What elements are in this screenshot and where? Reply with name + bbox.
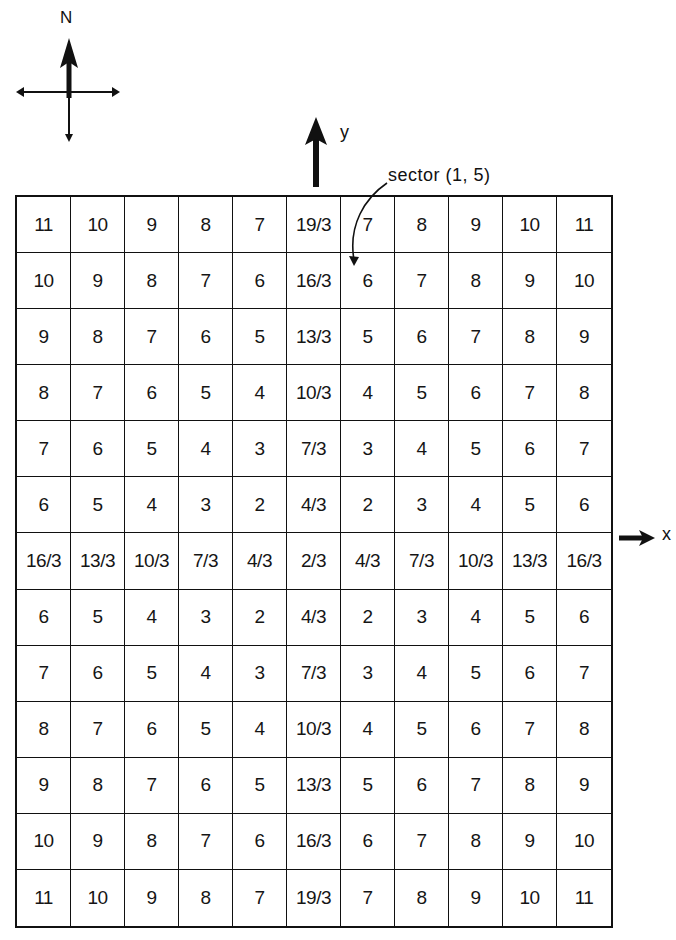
grid-cell: 6	[233, 253, 287, 309]
grid-cell: 6	[395, 309, 449, 365]
grid-cell: 9	[17, 758, 71, 814]
grid-cell: 4	[233, 365, 287, 421]
grid-cell: 6	[71, 421, 125, 477]
grid-cell: 6	[503, 421, 557, 477]
grid-cell: 4	[179, 421, 233, 477]
grid-cell: 16/3	[287, 253, 341, 309]
grid-cell: 5	[71, 477, 125, 533]
compass-rose	[10, 6, 130, 156]
grid-cell: 9	[449, 197, 503, 253]
sector-distance-grid: 111098719/3789101110987616/3678910987651…	[15, 195, 613, 928]
sector-annotation-label: sector (1, 5)	[388, 165, 491, 186]
grid-cell: 5	[233, 758, 287, 814]
grid-cell: 6	[341, 253, 395, 309]
grid-cell: 10/3	[449, 533, 503, 589]
grid-cell: 4	[395, 421, 449, 477]
grid-cell: 7	[395, 253, 449, 309]
grid-cell: 7	[125, 309, 179, 365]
grid-cell: 7	[71, 702, 125, 758]
grid-cell: 8	[179, 870, 233, 926]
grid-cell: 6	[179, 309, 233, 365]
grid-cell: 6	[125, 702, 179, 758]
grid-cell: 19/3	[287, 197, 341, 253]
grid-cell: 3	[233, 646, 287, 702]
grid-cell: 10	[503, 870, 557, 926]
grid-cell: 3	[341, 646, 395, 702]
grid-cell: 9	[17, 309, 71, 365]
grid-cell: 7	[179, 814, 233, 870]
grid-cell: 7	[557, 646, 611, 702]
grid-cell: 4/3	[287, 590, 341, 646]
grid-cell: 5	[125, 646, 179, 702]
grid-cell: 7	[71, 365, 125, 421]
grid-cell: 13/3	[503, 533, 557, 589]
grid-cell: 5	[341, 309, 395, 365]
grid-cell: 5	[449, 646, 503, 702]
grid-cell: 8	[125, 814, 179, 870]
grid-cell: 2	[233, 590, 287, 646]
grid-cell: 4/3	[233, 533, 287, 589]
grid-cell: 6	[71, 646, 125, 702]
grid-cell: 10/3	[287, 702, 341, 758]
grid-cell: 9	[125, 870, 179, 926]
grid-cell: 11	[17, 870, 71, 926]
grid-cell: 7	[449, 309, 503, 365]
grid-cell: 7	[233, 197, 287, 253]
grid-cell: 4	[233, 702, 287, 758]
grid-cell: 6	[125, 365, 179, 421]
grid-cell: 7	[557, 421, 611, 477]
grid-cell: 5	[503, 477, 557, 533]
grid-cell: 6	[179, 758, 233, 814]
grid-cell: 11	[17, 197, 71, 253]
grid-cell: 6	[557, 590, 611, 646]
grid-cell: 4	[449, 590, 503, 646]
grid-cell: 13/3	[287, 309, 341, 365]
grid-cell: 4/3	[341, 533, 395, 589]
grid-cell: 7	[503, 702, 557, 758]
grid-cell: 8	[503, 758, 557, 814]
grid-cell: 8	[71, 309, 125, 365]
grid-cell: 9	[557, 758, 611, 814]
x-axis-label: x	[662, 524, 671, 545]
grid-cell: 7/3	[395, 533, 449, 589]
grid-cell: 13/3	[71, 533, 125, 589]
grid-cell: 7	[341, 870, 395, 926]
grid-cell: 2	[341, 477, 395, 533]
grid-cell: 8	[557, 702, 611, 758]
grid-cell: 5	[179, 365, 233, 421]
grid-cell: 2/3	[287, 533, 341, 589]
y-axis-arrow-icon	[300, 115, 334, 190]
grid-cell: 4	[341, 702, 395, 758]
grid-cell: 8	[449, 253, 503, 309]
grid-cell: 7	[17, 421, 71, 477]
grid-cell: 7	[17, 646, 71, 702]
grid-cell: 10	[503, 197, 557, 253]
grid-cell: 10/3	[287, 365, 341, 421]
grid-cell: 6	[503, 646, 557, 702]
grid-cell: 8	[71, 758, 125, 814]
grid-cell: 6	[17, 477, 71, 533]
grid-cell: 2	[233, 477, 287, 533]
grid-cell: 8	[557, 365, 611, 421]
grid-cell: 9	[557, 309, 611, 365]
grid-cell: 4	[125, 590, 179, 646]
grid-cell: 7	[233, 870, 287, 926]
grid-cell: 7	[395, 814, 449, 870]
grid-cell: 7	[125, 758, 179, 814]
grid-cell: 3	[395, 477, 449, 533]
grid-cell: 8	[449, 814, 503, 870]
grid-cell: 5	[395, 702, 449, 758]
grid-cell: 3	[179, 477, 233, 533]
grid-cell: 5	[503, 590, 557, 646]
grid-cell: 16/3	[557, 533, 611, 589]
grid-cell: 8	[395, 870, 449, 926]
grid-cell: 9	[125, 197, 179, 253]
grid-cell: 16/3	[287, 814, 341, 870]
grid-cell: 7	[449, 758, 503, 814]
grid-cell: 5	[449, 421, 503, 477]
grid-cell: 9	[71, 814, 125, 870]
grid-cell: 7/3	[287, 646, 341, 702]
grid-cell: 6	[233, 814, 287, 870]
grid-cell: 5	[71, 590, 125, 646]
grid-cell: 19/3	[287, 870, 341, 926]
